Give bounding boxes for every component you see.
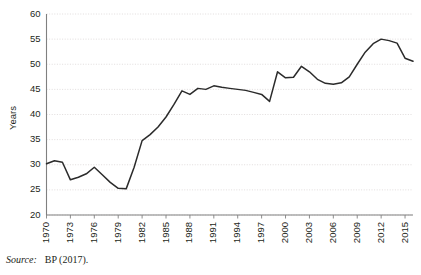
y-tick-label: 25 xyxy=(30,183,41,194)
x-tick-label: 1988 xyxy=(183,222,194,243)
source-label: Source: xyxy=(6,254,37,265)
x-tick-label: 2006 xyxy=(327,222,338,243)
y-tick-label: 55 xyxy=(30,33,41,44)
y-tick-label: 45 xyxy=(30,83,41,94)
x-tick-label: 1970 xyxy=(40,222,51,243)
x-tick-label: 1994 xyxy=(231,222,242,243)
y-tick-label: 50 xyxy=(30,58,41,69)
x-tick-label: 2009 xyxy=(351,222,362,243)
x-tick-label: 2015 xyxy=(399,222,410,243)
figure-container: 202530354045505560 197019731976197919821… xyxy=(0,0,421,275)
x-tick-labels-group: 1970197319761979198219851988199119941997… xyxy=(40,222,410,243)
x-tick-label: 2012 xyxy=(375,222,386,243)
y-tick-label: 40 xyxy=(30,108,41,119)
y-tick-label: 60 xyxy=(30,8,41,19)
line-chart: 202530354045505560 197019731976197919821… xyxy=(0,0,421,275)
x-tick-label: 1991 xyxy=(207,222,218,243)
x-tick-label: 1997 xyxy=(255,222,266,243)
x-tick-label: 1982 xyxy=(136,222,147,243)
source-note: Source:BP (2017). xyxy=(6,254,88,265)
x-tick-label: 2003 xyxy=(303,222,314,243)
x-tick-label: 1973 xyxy=(64,222,75,243)
x-tick-label: 1976 xyxy=(88,222,99,243)
y-tick-label: 30 xyxy=(30,158,41,169)
data-series-line xyxy=(47,39,414,189)
y-tick-label: 20 xyxy=(30,209,41,220)
gridlines-group xyxy=(47,14,414,215)
y-tick-label: 35 xyxy=(30,133,41,144)
y-tick-labels-group: 202530354045505560 xyxy=(30,8,41,220)
y-axis-title: Years xyxy=(7,106,18,130)
x-tick-label: 2000 xyxy=(279,222,290,243)
x-tick-label: 1979 xyxy=(112,222,123,243)
x-tick-label: 1985 xyxy=(160,222,171,243)
source-text: BP (2017). xyxy=(45,254,89,265)
